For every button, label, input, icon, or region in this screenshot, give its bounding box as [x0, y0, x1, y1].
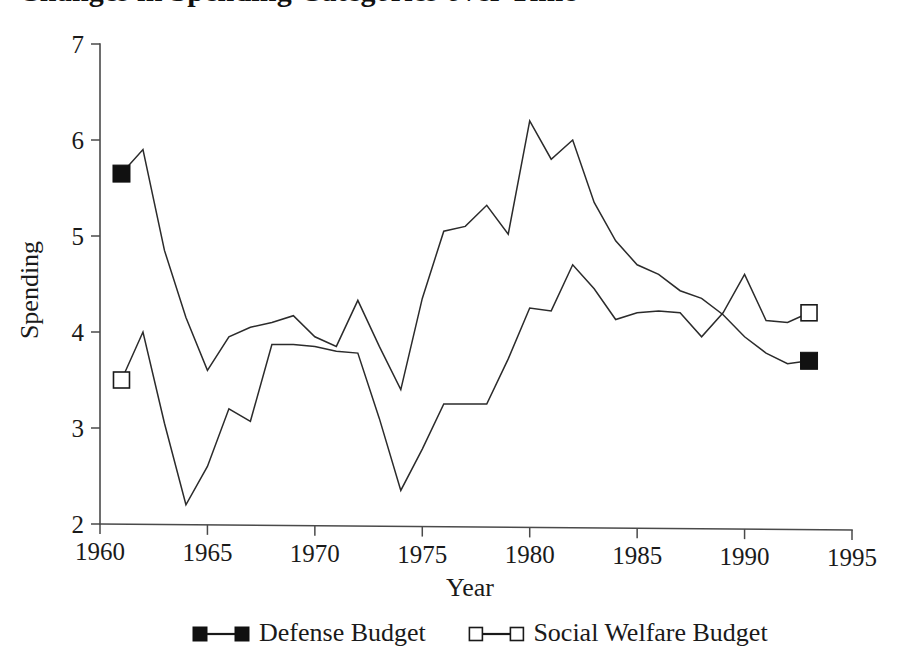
y-tick-label: 5 [72, 223, 85, 250]
x-axis: 19601965197019751980198519901995 [75, 524, 877, 571]
y-axis-title: Spending [15, 241, 44, 339]
y-axis: 234567 [72, 31, 101, 538]
y-tick-label: 7 [72, 31, 85, 58]
legend-marker-right [235, 627, 249, 641]
x-axis-title: Year [446, 573, 494, 602]
y-tick-label: 6 [72, 127, 85, 154]
series-line-1 [121, 121, 809, 390]
series-endpoint-marker [113, 165, 130, 182]
y-tick-label: 4 [72, 319, 85, 346]
legend-marker-left [469, 628, 482, 641]
x-tick-label: 1985 [612, 542, 662, 569]
line-chart-plot: 234567 19601965197019751980198519901995 … [0, 0, 900, 664]
chart-figure: Changes in Spending Categories over Time… [0, 0, 900, 664]
x-tick-label: 1960 [75, 538, 125, 565]
legend-marker-right [510, 628, 523, 641]
chart-legend: Defense BudgetSocial Welfare Budget [193, 618, 768, 647]
y-tick-label: 2 [72, 511, 85, 538]
x-tick-label: 1980 [505, 541, 555, 568]
series-endpoint-marker [801, 352, 818, 369]
data-series-group [113, 121, 818, 505]
series-endpoint-marker [113, 372, 129, 388]
y-tick-group: 234567 [72, 31, 101, 538]
legend-label-2: Social Welfare Budget [533, 618, 768, 647]
x-tick-group: 19601965197019751980198519901995 [75, 524, 877, 571]
y-tick-label: 3 [72, 415, 85, 442]
legend-label-1: Defense Budget [259, 618, 427, 647]
x-tick-label: 1995 [827, 544, 877, 571]
x-tick-label: 1970 [290, 540, 340, 567]
series-endpoint-marker [801, 305, 817, 321]
x-tick-label: 1965 [182, 539, 232, 566]
x-tick-label: 1990 [720, 543, 770, 570]
x-tick-label: 1975 [397, 541, 447, 568]
x-axis-line [100, 524, 852, 530]
legend-marker-left [193, 627, 207, 641]
